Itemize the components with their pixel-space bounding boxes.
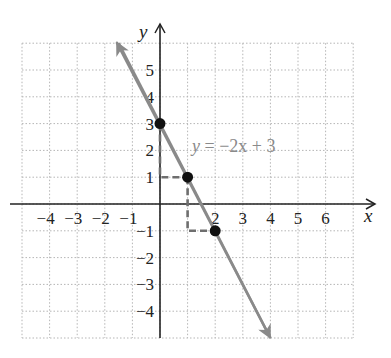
equation-y: y — [190, 136, 200, 156]
y-tick-label: 1 — [146, 168, 155, 187]
data-point — [210, 225, 221, 236]
equation-label: y = −2x + 3 — [190, 136, 275, 156]
axes — [10, 24, 375, 338]
y-tick-label: 3 — [146, 115, 155, 134]
data-point — [155, 118, 166, 129]
y-tick-label: 2 — [146, 141, 155, 160]
x-tick-label: −2 — [92, 209, 110, 228]
x-tick-label: −4 — [37, 209, 56, 228]
x-tick-label: 5 — [294, 209, 303, 228]
equation-body: = −2x + 3 — [200, 136, 275, 156]
y-tick-label: −4 — [136, 302, 155, 321]
line-graph: −4−3−2−12345654321−1−2−3−4 y x y = −2x +… — [0, 0, 391, 358]
y-tick-label: −3 — [136, 275, 154, 294]
x-tick-label: 6 — [321, 209, 330, 228]
x-tick-label: −1 — [119, 209, 137, 228]
x-tick-label: 4 — [266, 209, 275, 228]
x-axis-label: x — [363, 205, 373, 226]
x-tick-label: 3 — [239, 209, 248, 228]
y-tick-label: 5 — [146, 61, 155, 80]
tick-labels: −4−3−2−12345654321−1−2−3−4 — [37, 61, 330, 321]
y-axis-label: y — [137, 21, 148, 42]
data-point — [182, 172, 193, 183]
x-tick-label: −3 — [64, 209, 82, 228]
y-tick-label: −1 — [136, 222, 154, 241]
y-tick-label: −2 — [136, 249, 154, 268]
